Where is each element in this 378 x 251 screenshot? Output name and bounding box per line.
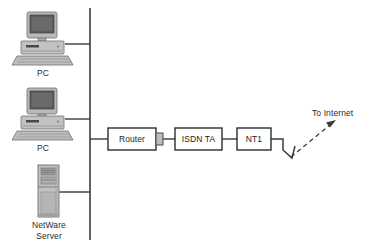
- nt1-label: NT1: [237, 135, 271, 144]
- pc-2-label: PC: [8, 143, 78, 154]
- dashed-arrow-to-internet-head: [326, 120, 336, 128]
- router-port-connector-icon: [156, 133, 163, 145]
- desktop-computer-icon-pc-2: [12, 88, 73, 140]
- dashed-arrow-to-internet-shaft: [291, 124, 331, 157]
- router-label: Router: [108, 135, 156, 144]
- server-tower-icon-netware: [38, 165, 59, 217]
- pc-1-label: PC: [8, 68, 78, 79]
- desktop-computer-icon-pc-1: [12, 12, 73, 65]
- isdn-ta-label: ISDN TA: [175, 135, 222, 144]
- netware-server-label: NetWare Server: [18, 220, 80, 242]
- wan-link-zigzag-icon: [271, 139, 295, 158]
- network-diagram: PC PC NetWare Server Router ISDN TA NT1 …: [0, 0, 378, 251]
- diagram-canvas: [0, 0, 378, 251]
- to-internet-label: To Internet: [312, 108, 353, 118]
